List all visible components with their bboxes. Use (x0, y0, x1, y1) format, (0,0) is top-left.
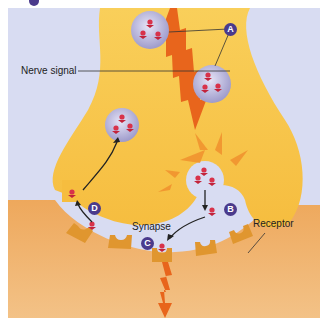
vesicle-top (131, 11, 169, 49)
synapse-label: Synapse (132, 222, 171, 232)
badge-a: A (224, 23, 237, 36)
vesicle-recycled (105, 108, 139, 142)
badge-c: C (141, 237, 154, 250)
cutoff-badge (29, 0, 39, 6)
synapse-diagram: Nerve signal Synapse Receptor A B C D (0, 0, 327, 325)
badge-b: B (224, 203, 237, 216)
diagram-canvas (0, 0, 327, 325)
nerve-signal-label: Nerve signal (21, 66, 77, 76)
badge-d: D (88, 202, 101, 215)
receptor-label: Receptor (253, 219, 294, 229)
